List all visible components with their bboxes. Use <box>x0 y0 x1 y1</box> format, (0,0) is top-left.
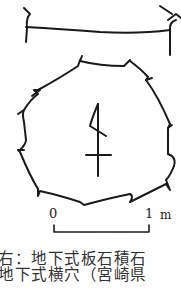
caption-line-2: 地下式横穴（宮崎県 <box>0 268 147 284</box>
scale-bar <box>54 225 149 232</box>
scale-start-label: 0 <box>49 207 57 220</box>
plan-drawing <box>0 0 181 289</box>
upper-structure-outline <box>24 6 181 55</box>
scale-unit-label: m <box>160 209 171 221</box>
scale-end-label: 1 <box>145 207 153 220</box>
north-arrow-icon <box>86 104 111 176</box>
